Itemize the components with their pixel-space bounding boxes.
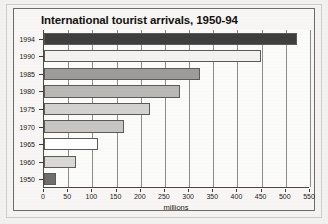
bar-1965 — [44, 138, 98, 150]
x-tick-mark-150 — [116, 189, 117, 192]
y-tick-label-1960: 1960 — [19, 158, 35, 165]
x-tick-mark-450 — [261, 189, 262, 192]
y-tick-label-1985: 1985 — [19, 70, 35, 77]
gridline-450 — [262, 30, 263, 187]
x-tick-mark-300 — [188, 189, 189, 192]
y-tick-label-1994: 1994 — [19, 35, 35, 42]
bar-1970 — [44, 120, 124, 132]
bar-1960 — [44, 156, 76, 168]
bar-1980 — [44, 85, 180, 97]
scanned-page: International tourist arrivals, 1950-94 … — [0, 0, 328, 224]
x-tick-label-0: 0 — [41, 193, 45, 200]
y-tick-label-1980: 1980 — [19, 88, 35, 95]
gridline-500 — [286, 30, 287, 187]
x-tick-label-450: 450 — [255, 193, 267, 200]
x-tick-mark-100 — [91, 189, 92, 192]
x-tick-label-350: 350 — [206, 193, 218, 200]
chart-figure: International tourist arrivals, 1950-94 … — [13, 8, 315, 211]
y-tick-mark-1980 — [39, 91, 43, 92]
y-tick-mark-1994 — [39, 39, 43, 40]
y-tick-mark-1965 — [39, 144, 43, 145]
y-tick-label-1975: 1975 — [19, 106, 35, 113]
x-tick-mark-0 — [43, 189, 44, 192]
x-tick-mark-250 — [164, 189, 165, 192]
plot-area — [43, 30, 309, 188]
x-tick-label-100: 100 — [86, 193, 98, 200]
x-tick-mark-350 — [212, 189, 213, 192]
plot-inner — [44, 30, 309, 187]
x-tick-label-500: 500 — [279, 193, 291, 200]
x-tick-label-300: 300 — [182, 193, 194, 200]
bar-1950 — [44, 173, 56, 185]
x-tick-mark-550 — [309, 189, 310, 192]
x-tick-mark-50 — [67, 189, 68, 192]
x-tick-label-250: 250 — [158, 193, 170, 200]
y-tick-label-1950: 1950 — [19, 176, 35, 183]
x-tick-label-550: 550 — [303, 193, 315, 200]
y-tick-mark-1960 — [39, 162, 43, 163]
bar-1994 — [44, 33, 297, 45]
x-tick-label-150: 150 — [110, 193, 122, 200]
bar-1990 — [44, 50, 261, 62]
x-tick-label-400: 400 — [231, 193, 243, 200]
x-tick-mark-200 — [140, 189, 141, 192]
y-tick-mark-1975 — [39, 109, 43, 110]
x-tick-mark-400 — [236, 189, 237, 192]
y-tick-mark-1985 — [39, 74, 43, 75]
chart-title: International tourist arrivals, 1950-94 — [41, 14, 238, 26]
x-axis-title: millions — [43, 203, 309, 212]
x-tick-mark-500 — [285, 189, 286, 192]
x-tick-label-200: 200 — [134, 193, 146, 200]
y-tick-mark-1950 — [39, 179, 43, 180]
y-tick-mark-1970 — [39, 127, 43, 128]
bar-1975 — [44, 103, 150, 115]
bar-1985 — [44, 68, 200, 80]
y-tick-mark-1990 — [39, 56, 43, 57]
y-tick-label-1970: 1970 — [19, 123, 35, 130]
gridline-550 — [310, 30, 311, 187]
y-tick-label-1990: 1990 — [19, 53, 35, 60]
y-tick-label-1965: 1965 — [19, 141, 35, 148]
x-tick-label-50: 50 — [63, 193, 71, 200]
